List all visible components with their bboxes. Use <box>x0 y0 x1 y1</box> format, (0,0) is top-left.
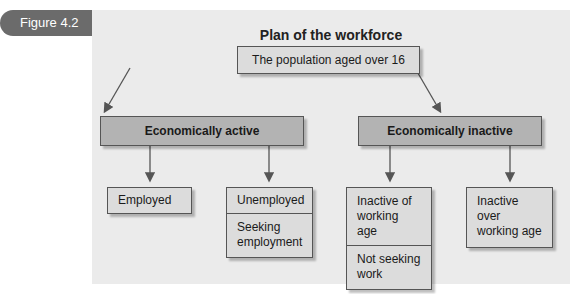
root-node: The population aged over 16 <box>237 46 420 74</box>
node-employed: Employed <box>107 187 192 214</box>
node-label: Economically active <box>145 124 260 138</box>
node-label: Inactive over working age <box>467 188 552 247</box>
node-label: Employed <box>108 188 191 213</box>
arrow-root-to-inactive <box>415 68 440 111</box>
root-node-label: The population aged over 16 <box>252 53 405 67</box>
node-inactive-working-age: Inactive of working age Not seeking work <box>346 187 432 290</box>
diagram-panel: Plan of the workforce The population age… <box>92 10 570 284</box>
node-unemployed: Unemployed Seeking employment <box>226 187 313 258</box>
arrow-root-to-active <box>105 68 130 111</box>
figure-label: Figure 4.2 <box>0 10 92 36</box>
node-economically-inactive: Economically inactive <box>358 116 542 146</box>
node-economically-active: Economically active <box>100 116 304 146</box>
node-label: Economically inactive <box>387 124 512 138</box>
node-label: Inactive of working age <box>347 188 431 245</box>
node-sublabel: Not seeking work <box>347 245 431 289</box>
node-sublabel: Seeking employment <box>227 213 312 257</box>
node-label: Unemployed <box>227 188 312 213</box>
node-inactive-over-working-age: Inactive over working age <box>466 187 553 248</box>
